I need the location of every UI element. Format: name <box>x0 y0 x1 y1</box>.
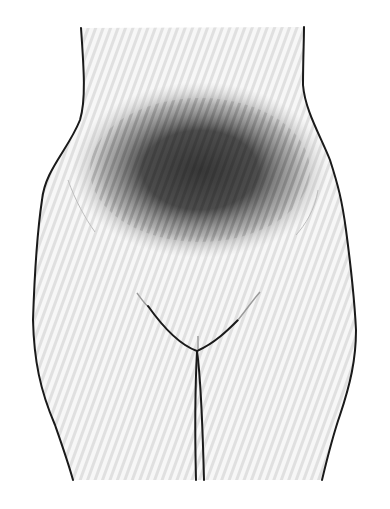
torso-diagram <box>0 0 390 509</box>
